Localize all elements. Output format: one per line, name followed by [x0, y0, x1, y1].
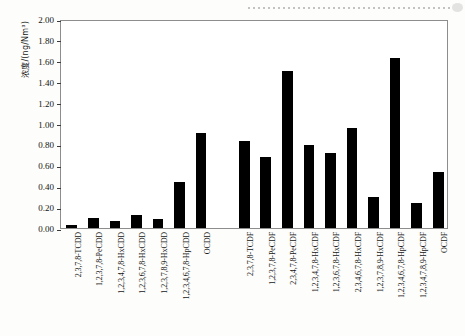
tick-label: 2.00 [38, 15, 54, 25]
tick-label: 0.80 [38, 140, 54, 150]
bar-fill [282, 71, 293, 228]
x-axis-labels: 2,3,7,8-TCDD1,2,3,7,8-PeCDD1,2,3,4,7,8-H… [60, 232, 448, 336]
bar-fill [88, 218, 99, 228]
bar [368, 197, 379, 228]
bar-fill [66, 225, 77, 228]
bar-fill [325, 153, 336, 228]
tick-label: 0.00 [38, 224, 54, 234]
bar [304, 145, 315, 228]
x-axis-label: 1,2,3,7,8,9-HxCDF [376, 232, 385, 292]
x-axis-label: 1,2,3,4,7,8-HxCDF [311, 232, 320, 292]
bar [282, 71, 293, 228]
x-axis-label: 1,2,3,4,6,7,8-HpCDD [182, 232, 191, 299]
tick-label: 1.60 [38, 57, 54, 67]
bar [347, 128, 358, 228]
x-axis-label: 1,2,3,4,7,8,9-HpCDF [419, 232, 428, 298]
tick-label: 0.20 [38, 203, 54, 213]
bar-fill [411, 203, 422, 228]
bar-fill [239, 141, 250, 228]
bar [325, 153, 336, 228]
bar [260, 157, 271, 228]
bar-fill [131, 215, 142, 228]
bar-series [61, 21, 447, 228]
bar [196, 133, 207, 228]
x-axis-label: OCDF [440, 232, 449, 253]
tick-label: 1.80 [38, 36, 54, 46]
x-axis-label: 1,2,3,6,7,8-HxCDF [332, 232, 341, 292]
x-axis-label: 1,2,3,4,7,8-HxCDD [117, 232, 126, 294]
bar-fill [304, 145, 315, 228]
x-axis-label: 2,3,4,7,8-PeCDF [289, 232, 298, 285]
y-axis-title: 浓度/(ng/Nm³) [19, 0, 30, 78]
tick-mark [57, 230, 61, 231]
bar [174, 182, 185, 228]
x-axis-label: 1,2,3,7,8-PeCDD [95, 232, 104, 286]
bar [239, 141, 250, 228]
bar [110, 221, 121, 228]
bar-chart: 浓度/(ng/Nm³) 0.000.200.400.600.801.001.20… [0, 0, 465, 336]
bar-fill [260, 157, 271, 228]
bar [66, 225, 77, 228]
plot-area: 0.000.200.400.600.801.001.201.401.601.80… [60, 20, 448, 229]
bar [433, 172, 444, 228]
bar-fill [174, 182, 185, 228]
x-axis-label: 2,3,7,8-TCDD [74, 232, 83, 277]
x-axis-label: 1,2,3,6,7,8-HxCDD [138, 232, 147, 294]
bar-fill [368, 197, 379, 228]
bar-fill [196, 133, 207, 228]
tick-label: 0.60 [38, 161, 54, 171]
tick-label: 1.40 [38, 78, 54, 88]
bar-fill [110, 221, 121, 228]
bar-fill [153, 219, 164, 228]
bar-fill [390, 58, 401, 228]
bar [153, 219, 164, 228]
bar [131, 215, 142, 228]
x-axis-label: 2,3,4,6,7,8-HxCDF [354, 232, 363, 292]
x-axis-label: 1,2,3,7,8,9-HxCDD [160, 232, 169, 294]
x-axis-label: 1,2,3,4,6,7,8-HpCDF [397, 232, 406, 298]
tick-label: 0.40 [38, 182, 54, 192]
bar-fill [347, 128, 358, 228]
x-axis-label: OCDD [203, 232, 212, 254]
tick-label: 1.00 [38, 120, 54, 130]
tick-label: 1.20 [38, 99, 54, 109]
bar [390, 58, 401, 228]
bar-fill [433, 172, 444, 228]
x-axis-label: 2,3,7,8-TCDF [246, 232, 255, 276]
bar [88, 218, 99, 228]
x-axis-label: 1,2,3,7,8-PeCDF [268, 232, 277, 285]
bar [411, 203, 422, 228]
